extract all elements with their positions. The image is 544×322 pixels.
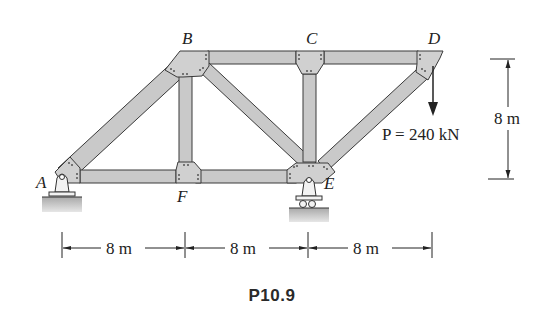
gusset-c — [296, 51, 324, 74]
member-bf — [179, 74, 192, 164]
member-bc — [208, 51, 296, 64]
member-de — [318, 70, 427, 171]
figure-caption: P10.9 — [0, 286, 544, 306]
joint-label-e: E — [323, 174, 335, 193]
joint-label-a: A — [35, 173, 47, 192]
ground-a — [42, 197, 82, 212]
joint-label-c: C — [306, 29, 318, 48]
truss-members — [58, 51, 427, 183]
member-ce — [303, 74, 316, 162]
vertical-dimension-label: 8 m — [494, 109, 520, 128]
joint-label-f: F — [176, 187, 188, 206]
load-label: P = 240 kN — [382, 125, 459, 144]
ground-e — [289, 208, 329, 222]
member-af — [80, 170, 176, 183]
member-be — [200, 63, 316, 172]
down-arrow-icon — [428, 102, 438, 116]
member-ab — [58, 58, 190, 180]
roller-support-e — [289, 178, 329, 223]
member-cd — [324, 51, 418, 64]
horizontal-dimension-fe: 8 m — [230, 239, 256, 258]
member-fe — [196, 170, 296, 183]
horizontal-dimension-af: 8 m — [106, 239, 132, 258]
down-arrow-icon — [506, 170, 511, 178]
horizontal-dimension-ed: 8 m — [353, 239, 379, 258]
truss-diagram: A B C D E F P = 240 kN 8 m — [0, 0, 544, 322]
joint-label-d: D — [427, 29, 441, 48]
joint-label-b: B — [182, 29, 193, 48]
up-arrow-icon — [506, 60, 511, 68]
